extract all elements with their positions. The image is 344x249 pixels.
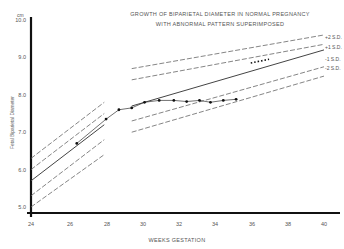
data-point <box>185 100 188 103</box>
reference-line-mean <box>31 125 104 181</box>
reference-line-2sd <box>31 155 104 207</box>
y-tick-7: 7.0 <box>4 129 26 135</box>
data-point <box>209 101 212 104</box>
reference-line-1sd <box>31 140 104 196</box>
chart: GROWTH OF BIPARIETAL DIAMETER IN NORMAL … <box>0 0 344 249</box>
x-tick-26: 26 <box>60 221 80 227</box>
reference-line-1sd <box>31 114 104 170</box>
y-tick-10: 10.0 <box>4 17 26 23</box>
y-tick-6: 6.0 <box>4 167 26 173</box>
x-tick-30: 30 <box>133 221 153 227</box>
data-point <box>130 106 133 109</box>
data-point <box>143 101 146 104</box>
y-tick-8: 8.0 <box>4 92 26 98</box>
continuation-dotted-line <box>251 59 269 63</box>
chart-subtitle: WITH ABNORMAL PATTERN SUPERIMPOSED <box>120 21 320 27</box>
x-tick-38: 38 <box>278 221 298 227</box>
data-point <box>105 118 108 121</box>
y-tick-9: 9.0 <box>4 54 26 60</box>
data-point <box>158 99 161 102</box>
data-point <box>172 99 175 102</box>
reference-line-mean <box>132 50 324 106</box>
x-tick-24: 24 <box>21 221 41 227</box>
x-tick-32: 32 <box>169 221 189 227</box>
y-tick-5: 5.0 <box>4 204 26 210</box>
data-point <box>75 142 78 145</box>
plot-area <box>0 0 344 249</box>
x-axis-label: WEEKS GESTATION <box>117 237 237 243</box>
sd-plus2-label: +2 S.D. <box>325 34 342 40</box>
x-tick-36: 36 <box>242 221 262 227</box>
abnormal-pattern-line <box>77 99 236 143</box>
chart-title: GROWTH OF BIPARIETAL DIAMETER IN NORMAL … <box>120 11 320 17</box>
x-tick-34: 34 <box>205 221 225 227</box>
data-point <box>235 98 238 101</box>
reference-line-2sd <box>31 102 104 158</box>
data-point <box>198 99 201 102</box>
data-point <box>118 108 121 111</box>
x-tick-28: 28 <box>97 221 117 227</box>
data-point <box>222 99 225 102</box>
x-tick-40: 40 <box>314 221 334 227</box>
reference-line-2sd <box>132 76 324 132</box>
sd-plus1-label: +1 S.D. <box>325 44 342 50</box>
reference-line-2sd <box>132 35 324 69</box>
sd-minus1-label: -1 S.D. <box>325 56 341 62</box>
sd-minus2-label: -2 S.D. <box>325 65 341 71</box>
